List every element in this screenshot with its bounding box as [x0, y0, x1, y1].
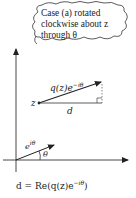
theta-label: θ — [43, 151, 48, 159]
cloud-caption: Case (a) rotated clockwise about z throu… — [41, 8, 108, 41]
right-angle-marker — [97, 98, 102, 103]
cloud-line-2: clockwise about z — [41, 19, 108, 30]
cloud-line-3: through θ — [41, 30, 108, 41]
unit-vector-label: eiθ — [25, 140, 35, 151]
formula: d = Re(q(z)e−iθ) — [16, 180, 88, 191]
d-label: d — [67, 107, 73, 116]
theta-arc — [39, 151, 40, 160]
z-label: z — [31, 99, 35, 108]
cloud-line-1: Case (a) rotated — [41, 8, 108, 19]
q-vector-label: q(z)e−iθ — [50, 82, 83, 93]
